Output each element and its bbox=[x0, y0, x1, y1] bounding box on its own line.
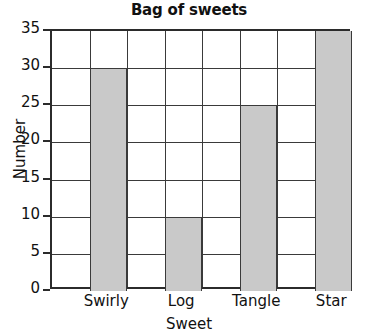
plot-area bbox=[50, 29, 350, 289]
y-tick-mark bbox=[43, 66, 50, 68]
y-tick-mark bbox=[43, 178, 50, 180]
gridline-vertical bbox=[277, 31, 278, 287]
y-tick-mark bbox=[43, 289, 50, 291]
bar-swirly bbox=[90, 68, 128, 291]
y-tick-mark bbox=[43, 140, 50, 142]
y-tick-mark bbox=[43, 29, 50, 31]
bar-log bbox=[165, 217, 203, 291]
gridline-vertical bbox=[127, 31, 128, 287]
y-tick-label: 25 bbox=[21, 95, 40, 110]
y-tick-label: 35 bbox=[21, 21, 40, 36]
x-axis-title: Sweet bbox=[0, 315, 378, 333]
y-tick-label: 15 bbox=[21, 170, 40, 185]
y-tick-label: 20 bbox=[21, 132, 40, 147]
gridline-vertical bbox=[202, 31, 203, 287]
y-tick-label: 10 bbox=[21, 207, 40, 222]
bar-star bbox=[315, 31, 353, 291]
chart-title: Bag of sweets bbox=[0, 1, 378, 19]
y-tick-mark bbox=[43, 103, 50, 105]
y-tick-mark bbox=[43, 215, 50, 217]
y-tick-label: 5 bbox=[30, 244, 40, 259]
y-tick-mark bbox=[43, 252, 50, 254]
x-tick-label-star: Star bbox=[281, 293, 378, 309]
bar-chart-figure: Bag of sweets Number Sweet 0510152025303… bbox=[0, 0, 378, 336]
bar-tangle bbox=[240, 105, 278, 291]
y-tick-label: 30 bbox=[21, 58, 40, 73]
y-tick-label: 0 bbox=[30, 281, 40, 296]
